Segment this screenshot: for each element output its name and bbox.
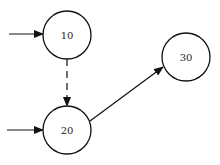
- node-label: 10: [61, 30, 74, 41]
- node-20: 20: [43, 106, 91, 154]
- node-label: 30: [180, 52, 193, 63]
- diagram-canvas: 10 20 30: [0, 0, 220, 165]
- node-label: 20: [61, 125, 74, 136]
- node-10: 10: [43, 11, 91, 59]
- node-30: 30: [162, 33, 210, 81]
- arrow-20-to-30: [90, 67, 163, 121]
